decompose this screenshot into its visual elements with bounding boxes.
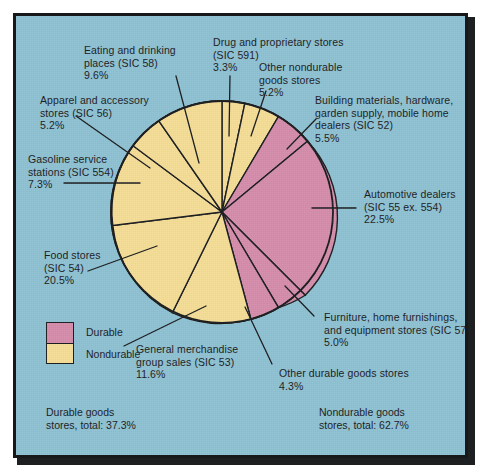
label-automotive-dealers: Automotive dealers (SIC 55 ex. 554) 22.5… [364, 188, 468, 226]
label-food-stores: Food stores (SIC 54) 20.5% [44, 249, 144, 287]
label-other-durable-goods-stores: Other durable goods stores 4.3% [279, 367, 444, 392]
legend-label-durable: Durable [86, 326, 123, 338]
label-drug-and-proprietary-stores: Drug and proprietary stores (SIC 591) 3.… [213, 36, 393, 74]
label-eating-and-drinking-places: Eating and drinking places (SIC 58) 9.6% [84, 44, 212, 82]
total-nondurable-goods: Nondurable goods stores, total: 62.7% [319, 406, 468, 431]
total-durable-goods: Durable goods stores, total: 37.3% [46, 406, 196, 431]
chart-legend: Durable Nondurable [46, 322, 176, 366]
label-gasoline-service-stations: Gasoline service stations (SIC 554) 7.3% [28, 153, 148, 191]
figure-frame: Eating and drinking places (SIC 58) 9.6%… [13, 13, 468, 458]
legend-swatch-durable[interactable] [47, 323, 73, 343]
legend-swatch-nondurable[interactable] [47, 343, 73, 363]
label-building-materials: Building materials, hardware, garden sup… [315, 94, 468, 144]
legend-color-box [46, 322, 74, 364]
chart-figure: Eating and drinking places (SIC 58) 9.6%… [0, 0, 486, 474]
legend-label-nondurable: Nondurable [86, 348, 140, 360]
label-apparel-and-accessory-stores: Apparel and accessory stores (SIC 56) 5.… [40, 94, 180, 132]
label-furniture-home-furnishings: Furniture, home furnishings, and equipme… [324, 311, 468, 349]
